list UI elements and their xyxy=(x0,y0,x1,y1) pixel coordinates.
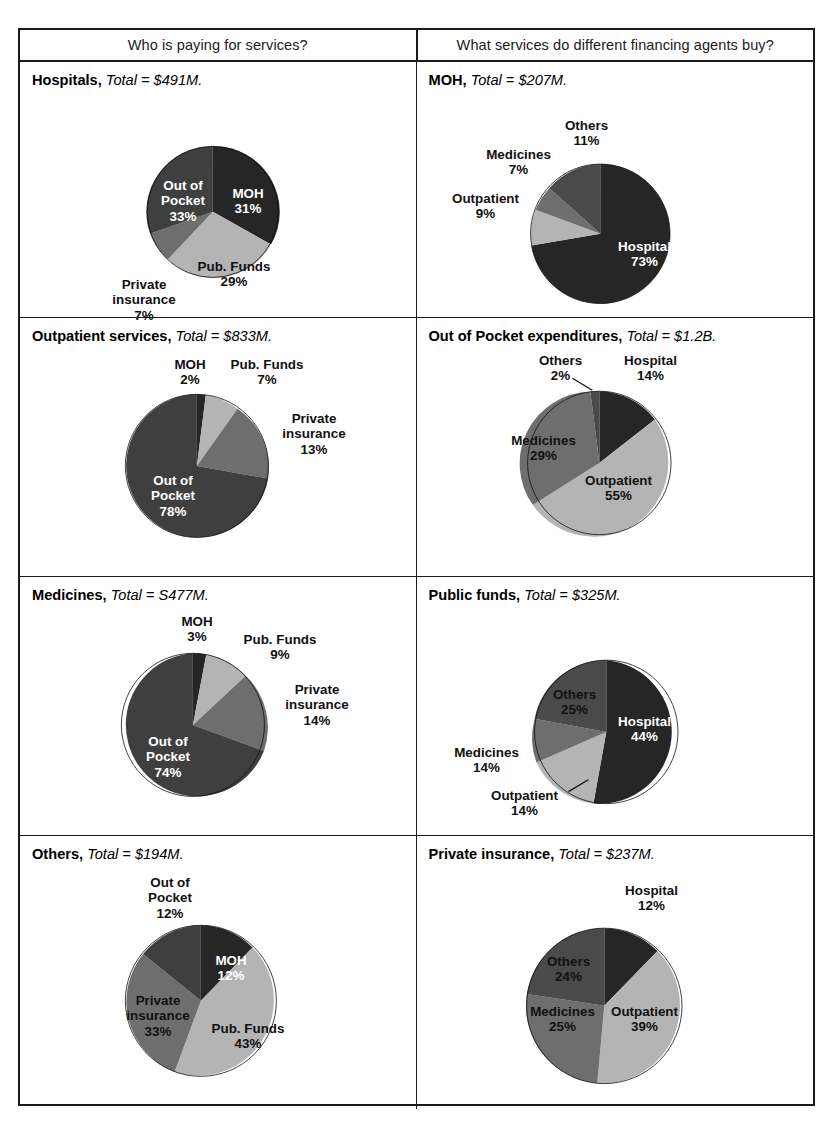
table-row: Outpatient services, Total = $833M. MOH2… xyxy=(20,318,813,577)
slice-label-pub-funds: Pub. Funds29% xyxy=(198,259,271,290)
slice-medicines xyxy=(532,719,606,763)
table-row: Others, Total = $194M. MOH12% xyxy=(20,836,813,1109)
page-title: Out of Pocket expenditures, Total = $1.2… xyxy=(429,328,802,344)
slice-hospital xyxy=(604,928,657,1006)
page-title: Hospitals, Total = $491M. xyxy=(32,72,404,88)
panel-others: Others, Total = $194M. MOH12% xyxy=(20,836,417,1109)
slice-label-others: Others2% xyxy=(539,353,582,384)
slice-label-outpatient: Outpatient9% xyxy=(452,191,519,222)
slice-moh xyxy=(193,653,206,725)
pie-chart-moh xyxy=(417,62,814,317)
pie-outline xyxy=(125,394,268,537)
page-title: MOH, Total = $207M. xyxy=(429,72,802,88)
column-header-payers: Who is paying for services? xyxy=(20,30,418,60)
slice-label-outpatient: Outpatient14% xyxy=(491,788,558,819)
charts-table-frame: Who is paying for services? What service… xyxy=(18,28,815,1106)
panel-hospitals: Hospitals, Total = $491M. MOH31% xyxy=(20,62,417,317)
panel-name-label: Medicines, xyxy=(32,587,107,603)
slice-hospital xyxy=(531,164,669,303)
panel-name-label: Out of Pocket expenditures, xyxy=(429,328,623,344)
slice-pub-funds xyxy=(197,395,238,466)
pie-outline xyxy=(530,164,669,303)
pie-chart-outpatient-services xyxy=(20,318,416,576)
slice-label-pub-funds: Pub. Funds9% xyxy=(244,632,317,663)
slice-label-others: Others11% xyxy=(565,118,608,149)
panel-outpatient-services: Outpatient services, Total = $833M. MOH2… xyxy=(20,318,417,576)
panel-out-of-pocket-expenditures: Out of Pocket expenditures, Total = $1.2… xyxy=(417,318,814,576)
panel-name-label: Private insurance, xyxy=(429,846,555,862)
panel-private-insurance: Private insurance, Total = $237M. Hospit… xyxy=(417,836,814,1109)
page-title: Others, Total = $194M. xyxy=(32,846,404,862)
leader-line-outpatient xyxy=(568,780,588,792)
panel-total-label: Total = $237M. xyxy=(558,846,654,862)
panel-total-label: Total = $833M. xyxy=(176,328,272,344)
slice-out-of-pocket xyxy=(126,394,268,537)
slice-label-hospital: Hospital44% xyxy=(618,714,671,745)
slice-label-medicines: Medicines7% xyxy=(486,147,551,178)
slice-label-outpatient: Outpatient39% xyxy=(611,1004,678,1035)
slice-moh xyxy=(197,394,206,466)
page-title: Medicines, Total = S477M. xyxy=(32,587,404,603)
pie-svg xyxy=(417,318,814,576)
panel-total-label: Total = $207M. xyxy=(471,72,567,88)
table-row: Hospitals, Total = $491M. MOH31% xyxy=(20,62,813,318)
slice-label-moh: MOH2% xyxy=(174,357,205,388)
pie-svg xyxy=(20,577,416,835)
table-header-row: Who is paying for services? What service… xyxy=(20,30,813,62)
slice-label-medicines: Medicines25% xyxy=(530,1004,595,1035)
panel-name-label: Outpatient services, xyxy=(32,328,172,344)
slice-label-hospital: Hospital14% xyxy=(624,353,677,384)
slice-label-others: Others25% xyxy=(553,687,596,718)
panel-total-label: Total = $194M. xyxy=(87,846,183,862)
slice-hospital xyxy=(599,391,655,463)
slice-label-private-insurance: Privateinsurance13% xyxy=(282,411,345,457)
slice-others xyxy=(590,391,599,463)
slice-label-pub-funds: Pub. Funds43% xyxy=(212,1021,285,1052)
slice-label-hospital: Hospital73% xyxy=(618,239,671,270)
slice-label-out-of-pocket: Out ofPocket78% xyxy=(151,473,195,519)
pie-chart-out-of-pocket-expenditures xyxy=(417,318,814,576)
pie-outline xyxy=(121,653,264,796)
slice-label-private-insurance: Privateinsurance14% xyxy=(285,682,348,728)
pie-chart-private-insurance xyxy=(417,836,814,1109)
panel-medicines: Medicines, Total = S477M. MOH3% xyxy=(20,577,417,835)
panel-total-label: Total = $1.2B. xyxy=(626,328,716,344)
slice-out-of-pocket xyxy=(143,925,201,1001)
panel-name-label: MOH, xyxy=(429,72,467,88)
pie-chart-public-funds xyxy=(417,577,814,835)
slice-label-out-of-pocket: Out ofPocket12% xyxy=(148,875,192,921)
panel-name-label: Public funds, xyxy=(429,587,521,603)
slice-label-outpatient: Outpatient55% xyxy=(585,473,652,504)
slice-medicines xyxy=(535,188,600,234)
slice-outpatient xyxy=(530,210,600,246)
figure-page: Who is paying for services? What service… xyxy=(0,0,833,1130)
panel-total-label: Total = $325M. xyxy=(524,587,620,603)
panel-name-label: Others, xyxy=(32,846,83,862)
pie-svg xyxy=(417,62,814,317)
slice-label-pub-funds: Pub. Funds7% xyxy=(231,357,304,388)
slice-label-moh: MOH12% xyxy=(215,953,246,984)
slice-label-medicines: Medicines29% xyxy=(511,433,576,464)
slice-label-private-insurance: Privateinsurance7% xyxy=(112,277,175,323)
slice-others xyxy=(549,164,600,234)
page-title: Outpatient services, Total = $833M. xyxy=(32,328,404,344)
slice-private-insurance xyxy=(193,676,268,751)
pie-svg xyxy=(417,836,814,1109)
slice-label-out-of-pocket: Out ofPocket33% xyxy=(161,178,205,224)
slice-label-others: Others24% xyxy=(547,954,590,985)
panel-public-funds: Public funds, Total = $325M. Ho xyxy=(417,577,814,835)
pie-svg xyxy=(417,577,814,835)
panel-total-label: Total = S477M. xyxy=(111,587,209,603)
slice-private-insurance xyxy=(197,409,269,479)
panel-moh: MOH, Total = $207M. Hospital73% xyxy=(417,62,814,317)
panel-total-label: Total = $491M. xyxy=(106,72,202,88)
slice-label-out-of-pocket: Out ofPocket74% xyxy=(146,734,190,780)
table-row: Medicines, Total = S477M. MOH3% xyxy=(20,577,813,836)
pie-chart-medicines xyxy=(20,577,416,835)
slice-label-moh: MOH31% xyxy=(232,186,263,217)
column-header-services: What services do different financing age… xyxy=(418,30,814,60)
slice-pub-funds xyxy=(193,655,246,725)
page-title: Public funds, Total = $325M. xyxy=(429,587,802,603)
panel-name-label: Hospitals, xyxy=(32,72,102,88)
page-title: Private insurance, Total = $237M. xyxy=(429,846,802,862)
